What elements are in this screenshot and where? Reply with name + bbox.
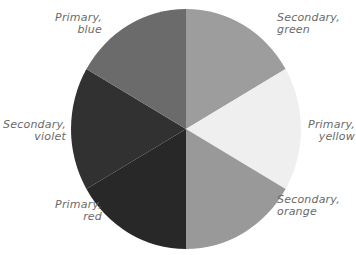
label-line: violet — [0, 131, 66, 143]
label-line: green — [277, 24, 340, 36]
label-secondary-green: Secondary, green — [277, 12, 340, 36]
label-secondary-orange: Secondary, orange — [277, 194, 340, 218]
label-line: red — [40, 211, 102, 223]
label-line: yellow — [296, 131, 355, 143]
label-primary-blue: Primary, blue — [40, 12, 102, 36]
label-line: blue — [40, 24, 102, 36]
label-primary-yellow: Primary, yellow — [296, 119, 355, 143]
label-secondary-violet: Secondary, violet — [0, 119, 66, 143]
label-line: orange — [277, 206, 340, 218]
label-primary-red: Primary, red — [40, 199, 102, 223]
